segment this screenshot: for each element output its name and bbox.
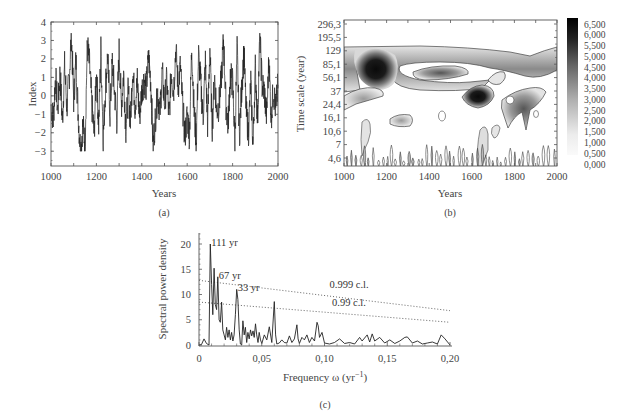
panel-b-y-label: Time scale (year): [294, 55, 307, 132]
panel-c-x-ticks: 00,050,100,150,20: [196, 342, 459, 364]
y-tick-label: 1: [41, 72, 46, 83]
colorbar-tick-label: 5,500: [584, 41, 606, 51]
colorbar-tick-label: 3,500: [584, 84, 606, 94]
index-line: [51, 33, 278, 151]
panel-b-caption: (b): [444, 207, 456, 219]
y-tick-label: 296,3: [317, 19, 341, 30]
short-period-contours: [346, 144, 555, 166]
cl-0999-label: 0.999 c.l.: [330, 279, 369, 290]
y-tick-label: 37: [331, 86, 342, 97]
x-tick-label: 1400: [131, 171, 152, 182]
peak-label: 33 yr: [238, 282, 260, 293]
x-tick-label: 1000: [334, 171, 355, 182]
y-tick-label: 0: [186, 340, 191, 351]
y-tick-label: 16,1: [323, 112, 341, 123]
y-tick-label: 24,4: [323, 99, 342, 110]
index-series-line: [51, 33, 278, 151]
x-tick-label: 0,20: [441, 353, 459, 364]
cl-099-label: 0.99 c.l.: [332, 297, 366, 308]
colorbar-tick-label: 4,000: [584, 73, 606, 83]
contour-1450: [413, 66, 468, 80]
x-tick-label: 0,15: [378, 353, 396, 364]
confidence-lines: 0.999 c.l.0.99 c.l.: [199, 279, 450, 322]
colorbar-tick-label: 5,000: [584, 52, 606, 62]
y-tick-label: −1: [35, 109, 46, 120]
wavelet-power-contours: [344, 46, 557, 166]
x-tick-label: 0,10: [315, 353, 333, 364]
y-tick-label: 15: [181, 264, 192, 275]
colorbar-tick-label: 4,500: [584, 63, 606, 73]
x-tick-label: 1800: [504, 171, 525, 182]
panel-b-wavelet: 296,3195,512985,156,13724,416,110,674,6 …: [294, 18, 606, 219]
x-tick-label: 2000: [547, 171, 568, 182]
panel-b-x-label: Years: [438, 187, 463, 199]
contour-island: [361, 119, 371, 156]
figure: 43210−1−2−3 100012001400160018002000 Ind…: [0, 0, 620, 419]
y-tick-label: 4,6: [328, 153, 341, 164]
y-tick-label: 129: [325, 45, 341, 56]
colorbar-tick-label: 1,500: [584, 127, 606, 137]
contour-island: [491, 125, 500, 138]
peak-label: 67 yr: [219, 270, 241, 281]
contour-island: [534, 111, 539, 118]
contour-island: [439, 111, 446, 121]
y-tick-label: 85,1: [323, 59, 341, 70]
spectrum-line: [199, 244, 450, 345]
panel-a-x-label: Years: [152, 187, 177, 199]
colorbar-tick-label: 2,000: [584, 116, 606, 126]
x-tick-label: 1400: [419, 171, 440, 182]
contour-max-power: [354, 48, 398, 90]
colorbar-tick-label: 1,000: [584, 138, 606, 148]
colorbar-tick-labels: 6,5006,0005,5005,0004,5004,0003,5003,000…: [584, 20, 606, 170]
panel-c-y-label: Spectral power density: [156, 238, 168, 339]
panel-a-time-series: 43210−1−2−3 100012001400160018002000 Ind…: [26, 17, 289, 220]
y-tick-label: −2: [35, 127, 46, 138]
y-tick-label: 4: [41, 17, 47, 28]
x-tick-label: 1000: [41, 171, 62, 182]
colorbar: [567, 18, 578, 155]
contour-1270: [390, 115, 413, 127]
spectral-density-line: [199, 244, 450, 345]
peak-label: 111 yr: [211, 237, 238, 248]
y-tick-label: 195,5: [317, 32, 341, 43]
colorbar-tick-label: 6,000: [584, 30, 606, 40]
colorbar-tick-label: 0,500: [584, 149, 606, 159]
x-tick-label: 1200: [86, 171, 107, 182]
contour-1680: [488, 72, 505, 85]
y-tick-label: 10,6: [323, 126, 341, 137]
x-tick-label: 0,05: [253, 353, 271, 364]
panel-c-caption: (c): [319, 399, 330, 411]
x-tick-label: 1200: [376, 171, 397, 182]
x-tick-label: 0: [196, 353, 201, 364]
y-tick-label: −3: [35, 146, 46, 157]
y-tick-label: 0: [41, 90, 46, 101]
colorbar-tick-label: 3,000: [584, 95, 606, 105]
panel-a-y-label: Index: [26, 81, 38, 107]
x-tick-label: 1600: [461, 171, 482, 182]
y-tick-label: 2: [41, 53, 46, 64]
y-tick-label: 7: [336, 139, 341, 150]
contour-hole: [506, 96, 514, 104]
x-tick-label: 2000: [268, 171, 289, 182]
y-tick-label: 5: [186, 314, 191, 325]
y-tick-label: 3: [41, 35, 46, 46]
x-tick-label: 1800: [222, 171, 243, 182]
y-tick-label: 56,1: [323, 72, 341, 83]
panel-c-spectrum: 0.999 c.l.0.99 c.l. 05101520 00,050,100,…: [156, 233, 459, 411]
x-tick-label: 1600: [177, 171, 198, 182]
colorbar-tick-label: 0,000: [584, 160, 606, 170]
y-tick-label: 10: [181, 289, 192, 300]
colorbar-tick-label: 6,500: [584, 20, 606, 30]
contour-1830: [501, 88, 546, 131]
y-tick-label: 20: [181, 239, 192, 250]
cl-099-line: [199, 302, 450, 322]
panel-c-x-label: Frequency ω (yr−1): [283, 370, 368, 384]
colorbar-tick-label: 2,500: [584, 106, 606, 116]
panel-a-caption: (a): [158, 207, 169, 219]
